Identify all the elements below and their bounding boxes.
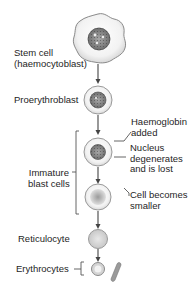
arrow [96, 249, 101, 262]
reticulocyte-cell [89, 230, 108, 249]
erythrocytes-bracket [74, 262, 84, 275]
annotation-haemoglobin-added: Haemoglobin added [131, 117, 187, 138]
arrow [96, 115, 101, 135]
proerythroblast-cell [84, 86, 112, 114]
immature-cell-fading [85, 184, 111, 210]
smaller-leader [124, 188, 129, 196]
annotation-cell-becomes-smaller: Cell becomes smaller [130, 190, 188, 211]
arrow [96, 64, 101, 84]
label-stem-cell: Stem cell (haemocytoblast) [14, 48, 87, 69]
annotation-nucleus-degenerates: Nucleus degenerates and is lost [130, 143, 183, 175]
label-reticulocyte: Reticulocyte [18, 234, 70, 245]
immature-cell-nucleated [84, 138, 112, 166]
label-immature-blast-cells: Immature blast cells [28, 168, 70, 189]
label-proerythroblast: Proerythroblast [14, 95, 78, 106]
haemoglobin-leader [114, 132, 131, 141]
erythrocyte-side-view [111, 263, 121, 282]
erythrocytes-cells [92, 263, 122, 282]
immature-bracket [72, 131, 79, 214]
arrow [96, 211, 101, 229]
label-erythrocytes: Erythrocytes [16, 264, 69, 275]
arrow [96, 167, 101, 184]
